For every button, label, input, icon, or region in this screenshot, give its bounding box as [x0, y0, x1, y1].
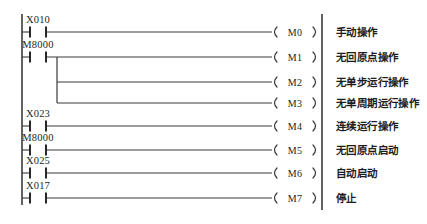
- coil-bracket-right: [313, 193, 316, 203]
- coil-bracket-left: [275, 52, 278, 62]
- coil-bracket-right: [313, 168, 316, 178]
- contact-label: M8000: [22, 132, 53, 143]
- rung-annotation-label: 无单步运行操作: [336, 77, 409, 88]
- coil-bracket-left: [275, 27, 278, 37]
- rung-annotation-label: 停止: [336, 193, 357, 204]
- power-rails: [22, 14, 322, 210]
- coil-bracket-left: [275, 168, 278, 178]
- contact-label: X010: [26, 14, 50, 25]
- coil-label: M1: [288, 52, 302, 63]
- rung-annotation-label: 连续运行操作: [336, 121, 398, 132]
- rung-annotation-label: 无回原点操作: [336, 52, 398, 63]
- rung-wires: [22, 32, 272, 198]
- contact-label: X023: [26, 108, 50, 119]
- rung-annotation-label: 无单周期运行操作: [336, 98, 419, 109]
- coil-label: M4: [288, 121, 302, 132]
- symbol-text-layer: X010M0M8000M1M2M3X023M4M8000M5X025M6X017…: [22, 14, 302, 204]
- coil-bracket-left: [275, 145, 278, 155]
- coil-label: M0: [288, 27, 302, 38]
- contact-label: M8000: [22, 39, 53, 50]
- contact-label: X017: [26, 180, 50, 191]
- coil-label: M7: [288, 193, 302, 204]
- coil-bracket-left: [275, 98, 278, 108]
- rung-annotation-label: 无回原点启动: [336, 145, 398, 156]
- ladder-diagram: X010M0M8000M1M2M3X023M4M8000M5X025M6X017…: [0, 0, 427, 224]
- coil-bracket-left: [275, 121, 278, 131]
- coil-bracket-right: [313, 98, 316, 108]
- rung-annotation-label: 手动操作: [336, 27, 378, 38]
- coil-bracket-right: [313, 121, 316, 131]
- coil-bracket-right: [313, 27, 316, 37]
- coil-bracket-right: [313, 52, 316, 62]
- coil-label: M6: [288, 168, 302, 179]
- coil-label: M5: [288, 145, 302, 156]
- coil-bracket-right: [313, 77, 316, 87]
- rung-annotation-label: 自动启动: [336, 168, 378, 179]
- coil-bracket-right: [313, 145, 316, 155]
- coil-bracket-left: [275, 193, 278, 203]
- coil-label: M3: [288, 98, 302, 109]
- contact-label: X025: [26, 155, 50, 166]
- coil-bracket-left: [275, 77, 278, 87]
- coil-label: M2: [288, 77, 302, 88]
